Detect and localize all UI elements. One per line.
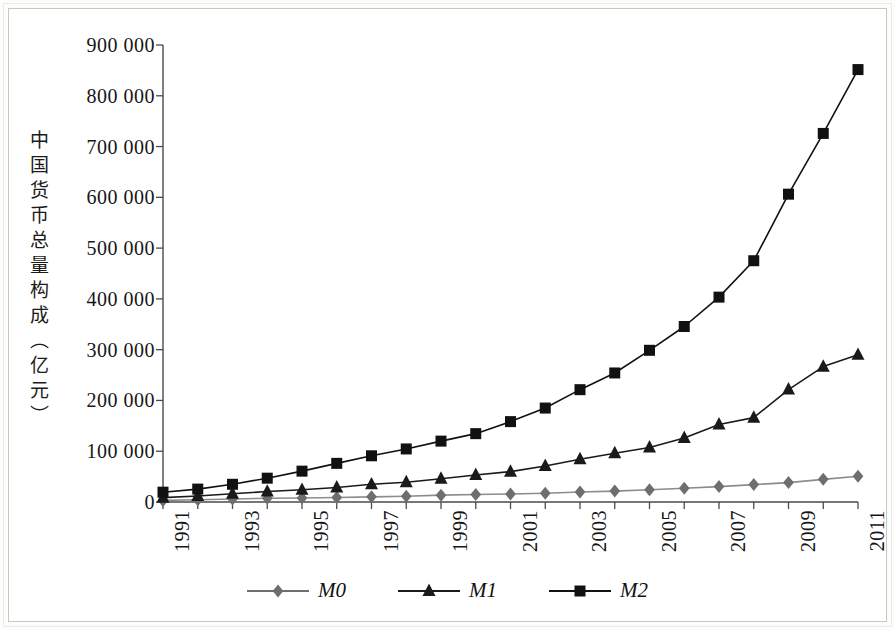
legend-item-m2[interactable]: M2 [549,578,648,603]
x-axis-tick-label: 2001 [519,510,542,570]
legend-label: M1 [469,578,497,603]
legend-label: M0 [318,578,346,603]
x-axis-tick-labels: 1991199319951997199920012003200520072009… [0,0,895,630]
data-point-triangle-marker [423,583,436,595]
x-axis-tick-label: 2011 [866,510,889,570]
x-axis-tick-label: 2007 [727,510,750,570]
legend-marker-triangle-icon [398,581,460,601]
x-axis-tick-label: 2003 [588,510,611,570]
x-axis-tick-label: 1993 [241,510,264,570]
x-axis-tick-label: 1991 [171,510,194,570]
x-axis-tick-label: 1995 [310,510,333,570]
legend-marker-diamond-icon [247,581,309,601]
legend-item-m0[interactable]: M0 [247,578,346,603]
legend-marker-square-icon [549,581,611,601]
data-point-diamond-marker [273,584,284,597]
x-axis-tick-label: 2009 [797,510,820,570]
figure-root: 中国货币总量构成︵亿元︶ 900 000800 000700 000600 00… [0,0,895,630]
legend-label: M2 [620,578,648,603]
x-axis-tick-label: 2005 [658,510,681,570]
x-axis-tick-label: 1997 [380,510,403,570]
x-axis-tick-label: 1999 [449,510,472,570]
legend-item-m1[interactable]: M1 [398,578,497,603]
data-point-square-marker [575,585,586,596]
chart-legend: M0M1M2 [0,578,895,603]
